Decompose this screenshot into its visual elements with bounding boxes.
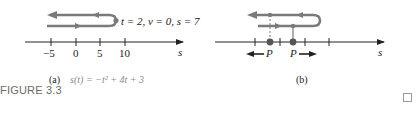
- arrow-right-icon: [75, 23, 82, 29]
- turn-point-dot: [113, 18, 118, 23]
- arrow-left-icon: [92, 12, 99, 18]
- tick-label-minus5: −5: [43, 47, 55, 59]
- tick-label-0: 0: [73, 47, 79, 59]
- caption-a: (a) s(t) = −t² + 4t + 3: [49, 69, 144, 87]
- p-label-left: P: [266, 47, 273, 59]
- axis-label-s-a: s: [178, 46, 182, 58]
- motion-path-b: [247, 11, 320, 41]
- direction-right-arrow-icon: [309, 51, 317, 57]
- direction-left-arrow-icon: [246, 51, 254, 57]
- arrow-left-icon: [47, 11, 57, 19]
- tick-label-10: 10: [119, 47, 130, 59]
- point-p-right: [290, 39, 297, 46]
- p-label-right: P: [290, 47, 297, 59]
- turn-label: t = 2, v = 0, s = 7: [121, 15, 200, 27]
- end-of-proof-square-icon: [403, 93, 412, 102]
- axis-label-s-b: s: [378, 46, 382, 58]
- point-p-left: [267, 39, 274, 46]
- arrow-right-icon: [275, 23, 282, 29]
- panel-b: [215, 11, 384, 57]
- caption-a-formula: s(t) = −t² + 4t + 3: [70, 74, 144, 85]
- arrow-left-icon: [247, 11, 257, 19]
- figure-canvas: [0, 0, 419, 118]
- motion-path-a: [47, 11, 119, 29]
- arrow-left-icon: [296, 12, 303, 18]
- tick-label-5: 5: [97, 47, 103, 59]
- figure-label: FIGURE 3.3: [0, 84, 62, 96]
- caption-b: (b): [296, 74, 308, 85]
